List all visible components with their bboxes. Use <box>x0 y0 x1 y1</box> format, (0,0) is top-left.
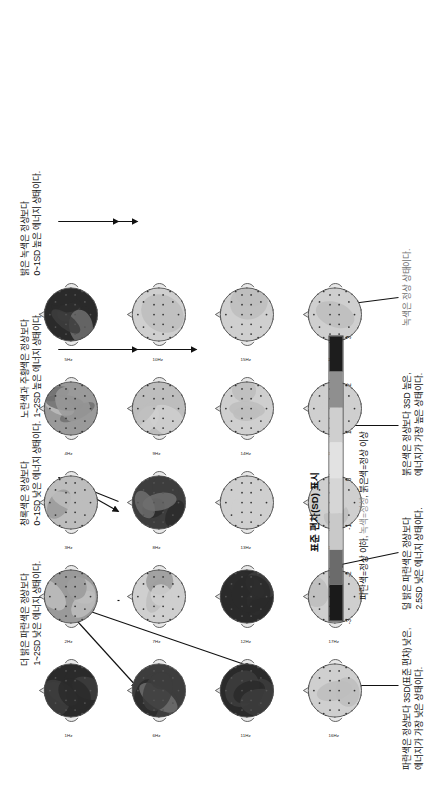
ear-marker-right <box>65 565 78 569</box>
head-topomap <box>210 373 280 443</box>
rim-tick <box>317 293 318 294</box>
rim-tick <box>135 582 136 583</box>
rim-tick <box>47 394 48 395</box>
annotation-blue-2p5sd: 덜 밝은 파란색은 정상보다 2.5SD 낮은 에너지 상태이다. <box>400 507 425 609</box>
ear-marker-left <box>241 341 254 345</box>
rim-tick <box>141 481 142 482</box>
topomap-cell[interactable]: 15Hz <box>206 271 292 357</box>
ear-marker-left <box>65 435 78 439</box>
colorbar-segment-1 <box>329 549 342 585</box>
ear-marker-right <box>153 377 166 381</box>
head-topomap <box>34 561 104 631</box>
topomap-cell[interactable]: 6Hz <box>118 647 204 733</box>
topomap-row: 1Hz2Hz3Hz4Hz5Hz <box>30 263 116 733</box>
colorbar-caption-part1: 파란색=정상 이하, <box>358 533 368 599</box>
colorbar-segment-6 <box>329 372 342 408</box>
frequency-label-text: 10Hz <box>152 356 163 361</box>
colorbar-segment-2 <box>329 514 342 550</box>
frequency-label-text: 1Hz <box>64 732 72 737</box>
colorbar-caption-green: 녹색=정상 <box>358 497 368 533</box>
topomap-cell[interactable]: 12Hz <box>206 553 292 639</box>
colorbar-segment-0 <box>329 585 342 621</box>
topomap-cell[interactable]: 8Hz <box>118 459 204 545</box>
frequency-label-text: 11Hz <box>240 732 250 737</box>
topomap-cell[interactable]: 10Hz <box>118 271 204 357</box>
annotation-cyan-line1: 청록색은 정상보다 <box>18 421 30 525</box>
colorbar-caption: 파란색=정상 이하, 녹색=정상, 붉은색=정상 이상 <box>356 431 368 599</box>
rim-tick <box>47 582 48 583</box>
annotation-yellow-orange-line1: 노란색과 주황색은 정상보다 <box>18 313 30 417</box>
head-topomap <box>34 655 104 725</box>
rim-tick <box>223 582 224 583</box>
annotation-light-green: 밝은 녹색은 정상보다 0~1SD 높은 에너지 상태이다. <box>18 171 43 275</box>
annotation-red-3sd-line1: 붉은색은 정상보다 3SD 높은, <box>400 372 412 475</box>
topomap-cell[interactable]: 7Hz <box>118 553 204 639</box>
colorbar-tick-0: 0 <box>344 477 351 481</box>
head-topomap <box>34 279 104 349</box>
topomap-cell[interactable]: 1Hz <box>30 647 116 733</box>
ear-marker-left <box>65 529 78 533</box>
ear-marker-right <box>65 377 78 381</box>
colorbar-title: 표준 편차(SD) 표시 <box>306 472 320 551</box>
rim-tick <box>223 394 224 395</box>
topomap-cell[interactable]: 14Hz <box>206 365 292 451</box>
colorbar-gradient <box>328 335 343 621</box>
head-topomap <box>122 279 192 349</box>
frequency-label-text: 17Hz <box>328 638 339 643</box>
rim-tick <box>311 676 312 677</box>
frequency-label-text: 3Hz <box>64 544 72 549</box>
topomap-row: 6Hz7Hz8Hz9Hz10Hz <box>118 263 204 733</box>
colorbar-segment-5 <box>329 407 342 443</box>
ear-marker-right <box>329 659 342 663</box>
annotation-red-3sd-line2: 에너지가 가장 높은 상태이다. <box>412 372 424 475</box>
rim-tick <box>141 293 142 294</box>
ear-marker-right <box>65 283 78 287</box>
topomap-cell[interactable]: 11Hz <box>206 647 292 733</box>
topomap-cell[interactable]: 4Hz <box>30 365 116 451</box>
head-topomap <box>122 655 192 725</box>
rim-tick <box>317 669 318 670</box>
colorbar-segment-4 <box>329 443 342 479</box>
head-topomap <box>122 561 192 631</box>
colorbar-tick--1: -1 <box>344 524 351 530</box>
annotation-light-green-line2: 0~1SD 높은 에너지 상태이다. <box>30 171 42 275</box>
topomap-row: 11Hz12Hz13Hz14Hz15Hz <box>206 263 292 733</box>
annotation-green-normal-line1: 녹색은 정상 상태이다. <box>400 248 412 325</box>
colorbar-tick-1: 1 <box>344 430 351 434</box>
rim-tick <box>53 293 54 294</box>
rim-tick <box>135 300 136 301</box>
rim-tick <box>135 394 136 395</box>
topomap-cell[interactable]: 5Hz <box>30 271 116 357</box>
ear-marker-left <box>241 529 254 533</box>
topomap-cell[interactable]: 13Hz <box>206 459 292 545</box>
frequency-label-text: 2Hz <box>64 638 72 643</box>
colorbar-tick--3: -3 <box>344 618 351 624</box>
annotation-blue-3sd: 파란색은 정상보다 3SD(표준 편차) 낮은, 에너지가 가장 낮은 상태이다… <box>400 627 425 769</box>
ear-marker-left <box>153 435 166 439</box>
head-topomap <box>122 373 192 443</box>
topomap-cell[interactable]: 9Hz <box>118 365 204 451</box>
head-topomap <box>210 655 280 725</box>
topomap-cell[interactable]: 2Hz <box>30 553 116 639</box>
rim-tick <box>53 387 54 388</box>
colorbar-segment-3 <box>329 478 342 514</box>
frequency-label-text: 9Hz <box>152 450 160 455</box>
head-topomap <box>122 467 192 537</box>
rim-tick <box>47 300 48 301</box>
head-topomap <box>210 467 280 537</box>
head-topomap <box>210 561 280 631</box>
ear-marker-right <box>241 283 254 287</box>
ear-marker-right <box>153 471 166 475</box>
topomap-cell[interactable]: 3Hz <box>30 459 116 545</box>
colorbar-tick-2: 2 <box>344 383 351 387</box>
colorbar-tick--2: -2 <box>344 571 351 577</box>
topomap-cell[interactable]: 16Hz <box>294 647 380 733</box>
ear-marker-left <box>241 435 254 439</box>
frequency-label-text: 8Hz <box>152 544 160 549</box>
colorbar-group: 표준 편차(SD) 표시 -3-2-10123 파란색=정상 이하, 녹색=정상… <box>306 329 370 629</box>
head-topomap <box>298 655 368 725</box>
rim-tick <box>47 676 48 677</box>
annotation-blue-2p5sd-line1: 덜 밝은 파란색은 정상보다 <box>400 507 412 609</box>
